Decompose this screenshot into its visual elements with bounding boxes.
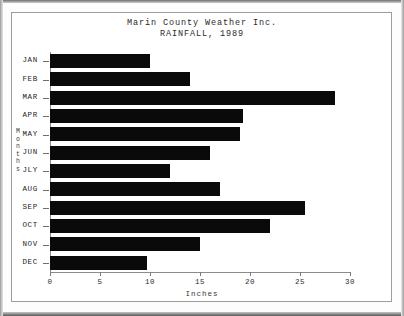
y-tick-label-jun: JUN [8,148,38,157]
bar-mar [50,91,335,105]
bar-sep [50,201,305,215]
y-tick-mark [43,98,49,99]
bar-dec [50,256,147,270]
y-tick-mark [43,208,49,209]
x-tick-label-25: 25 [288,278,312,286]
y-axis-title-char: h [12,158,24,166]
bar-row [50,235,350,253]
bar-row [50,52,350,70]
y-tick-mark [43,245,49,246]
bar-row [50,180,350,198]
y-tick-label-may: MAY [8,130,38,139]
y-tick-mark [43,116,49,117]
y-tick-label-apr: APR [8,111,38,120]
y-tick-label-sep: SEP [8,203,38,212]
chart-subtitle: RAINFALL, 1989 [0,29,404,40]
bar-apr [50,109,243,123]
y-tick-label-oct: OCT [8,221,38,230]
x-tick-label-0: 0 [38,278,62,286]
bar-row [50,144,350,162]
y-tick-label-jan: JAN [8,56,38,65]
x-tick-mark [300,272,301,276]
bar-may [50,127,240,141]
x-tick-label-15: 15 [188,278,212,286]
y-tick-mark [43,80,49,81]
y-tick-label-nov: NOV [8,240,38,249]
y-tick-mark [43,226,49,227]
bar-nov [50,237,200,251]
y-tick-mark [43,135,49,136]
x-tick-mark [350,272,351,276]
plot-area [50,52,350,272]
chart-title: Marin County Weather Inc. [0,18,404,29]
y-tick-mark [43,263,49,264]
bar-oct [50,219,270,233]
bar-aug [50,182,220,196]
scan-edge-top [0,0,404,3]
bar-row [50,199,350,217]
x-tick-label-10: 10 [138,278,162,286]
x-tick-mark [50,272,51,276]
x-tick-label-20: 20 [238,278,262,286]
bar-row [50,70,350,88]
scanned-chart-page: Marin County Weather Inc. RAINFALL, 1989… [0,0,404,316]
bar-jan [50,54,150,68]
bar-feb [50,72,190,86]
x-tick-label-30: 30 [338,278,362,286]
scan-edge-left [0,0,3,316]
y-tick-mark [43,190,49,191]
y-tick-mark [43,171,49,172]
x-tick-mark [150,272,151,276]
bar-row [50,125,350,143]
x-axis-title: Inches [0,290,404,298]
x-tick-mark [250,272,251,276]
chart-title-block: Marin County Weather Inc. RAINFALL, 1989 [0,18,404,40]
y-tick-label-mar: MAR [8,93,38,102]
y-tick-mark [43,153,49,154]
x-tick-mark [100,272,101,276]
y-tick-label-dec: DEC [8,258,38,267]
y-tick-label-feb: FEB [8,75,38,84]
y-tick-mark [43,61,49,62]
bar-jun [50,146,210,160]
bar-row [50,89,350,107]
bar-jly [50,164,170,178]
bar-row [50,254,350,272]
bar-row [50,162,350,180]
scan-edge-bottom [0,312,404,316]
y-tick-label-aug: AUG [8,185,38,194]
bar-row [50,107,350,125]
x-tick-label-5: 5 [88,278,112,286]
bar-row [50,217,350,235]
y-tick-label-jly: JLY [8,166,38,175]
x-tick-mark [200,272,201,276]
